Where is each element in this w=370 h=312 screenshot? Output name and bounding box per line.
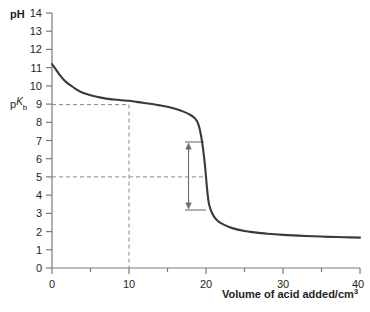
y-tick-label-14: 14 bbox=[30, 7, 42, 19]
y-tick-label-3: 3 bbox=[36, 207, 42, 219]
y-tick-label-10: 10 bbox=[30, 80, 42, 92]
y-tick-label-9: 9 bbox=[36, 98, 42, 110]
y-tick-label-7: 7 bbox=[36, 135, 42, 147]
y-tick-label-8: 8 bbox=[36, 116, 42, 128]
pkb-label-sub: b bbox=[23, 103, 28, 112]
y-axis-title: pH bbox=[10, 8, 25, 20]
titration-curve-chart: 14 13 12 11 10 9 8 7 6 5 4 3 2 1 0 bbox=[0, 0, 370, 312]
x-tick-label-10: 10 bbox=[123, 278, 135, 290]
x-axis-title: Volume of acid added/cm3 bbox=[222, 287, 359, 300]
y-tick-label-1: 1 bbox=[36, 244, 42, 256]
chart-svg: 14 13 12 11 10 9 8 7 6 5 4 3 2 1 0 bbox=[0, 0, 370, 312]
x-tick-label-20: 20 bbox=[200, 278, 212, 290]
x-axis-title-superscript: 3 bbox=[354, 287, 359, 296]
y-tick-label-2: 2 bbox=[36, 226, 42, 238]
y-tick-label-6: 6 bbox=[36, 153, 42, 165]
chart-background bbox=[0, 0, 370, 312]
y-tick-label-13: 13 bbox=[30, 25, 42, 37]
y-tick-label-4: 4 bbox=[36, 189, 42, 201]
y-tick-label-12: 12 bbox=[30, 43, 42, 55]
y-tick-label-5: 5 bbox=[36, 171, 42, 183]
x-axis-title-text: Volume of acid added/cm bbox=[222, 288, 354, 300]
x-tick-label-0: 0 bbox=[49, 278, 55, 290]
y-tick-label-0: 0 bbox=[36, 262, 42, 274]
y-tick-label-11: 11 bbox=[31, 62, 42, 74]
